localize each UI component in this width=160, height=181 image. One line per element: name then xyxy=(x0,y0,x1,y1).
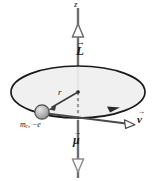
angular-momentum-arrowhead-icon xyxy=(72,24,83,37)
diagram-canvas xyxy=(0,0,160,181)
electron-sphere xyxy=(35,105,49,119)
magnetic-moment-arrowhead-icon xyxy=(72,159,83,172)
angular-momentum-label: L xyxy=(76,44,84,57)
physics-diagram-figure: z → L r mₑ, −e → v → μ xyxy=(0,0,160,181)
z-axis-label: z xyxy=(74,0,78,9)
velocity-label: v xyxy=(137,114,142,125)
velocity-vector-arrowhead-icon xyxy=(125,120,136,129)
radius-label: r xyxy=(58,88,62,97)
particle-label: mₑ, −e xyxy=(20,121,41,129)
magnetic-moment-label: μ xyxy=(73,134,80,146)
